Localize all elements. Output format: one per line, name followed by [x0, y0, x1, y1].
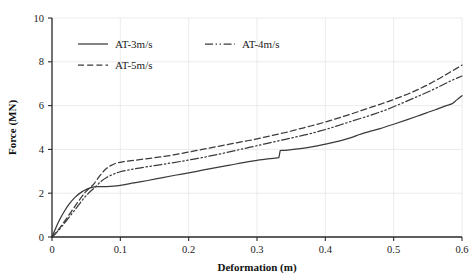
legend-label: AT-4m/s — [242, 38, 280, 50]
y-axis-ticks: 0246810 — [34, 13, 53, 243]
x-tick-label: 0 — [49, 244, 54, 255]
legend-item-at-5m-s[interactable]: AT-5m/s — [78, 59, 153, 71]
legend-item-at-3m-s[interactable]: AT-3m/s — [78, 38, 153, 50]
y-tick-label: 6 — [39, 100, 44, 111]
gridlines — [52, 18, 462, 237]
x-axis-title: Deformation (m) — [217, 261, 296, 274]
y-tick-label: 2 — [39, 188, 44, 199]
force-deformation-chart: 0246810 00.10.20.30.40.50.6 Force (MN) D… — [0, 0, 475, 278]
chart-canvas: 0246810 00.10.20.30.40.50.6 Force (MN) D… — [0, 0, 475, 278]
x-tick-label: 0.6 — [455, 244, 468, 255]
chart-legend: AT-3m/sAT-4m/sAT-5m/s — [78, 38, 280, 71]
x-axis-ticks: 00.10.20.30.40.50.6 — [49, 237, 468, 255]
x-tick-label: 0.3 — [250, 244, 263, 255]
y-axis-title: Force (MN) — [6, 100, 19, 155]
y-tick-label: 0 — [39, 232, 44, 243]
x-tick-label: 0.4 — [319, 244, 333, 255]
legend-label: AT-5m/s — [115, 59, 153, 71]
legend-label: AT-3m/s — [115, 38, 153, 50]
y-tick-label: 8 — [39, 56, 44, 67]
x-tick-label: 0.5 — [387, 244, 400, 255]
y-tick-label: 4 — [39, 144, 45, 155]
x-tick-label: 0.1 — [114, 244, 127, 255]
x-tick-label: 0.2 — [182, 244, 195, 255]
legend-item-at-4m-s[interactable]: AT-4m/s — [205, 38, 280, 50]
y-tick-label: 10 — [34, 13, 45, 24]
